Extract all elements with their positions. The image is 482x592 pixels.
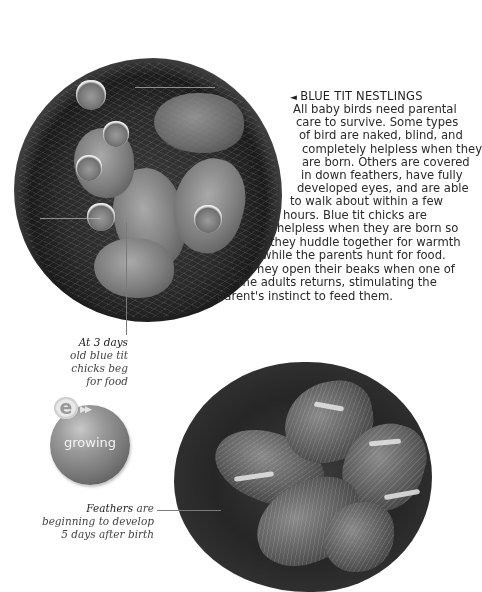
heading-text: BLUE TIT NESTLINGS [300, 89, 423, 103]
open-beak [103, 121, 129, 147]
chick-body [94, 238, 174, 298]
fast-forward-icon: ▶▶ [80, 404, 90, 414]
body-line: helpless when they are born so [277, 222, 458, 235]
body-line: to walk about within a few [290, 195, 443, 208]
caption-line: old blue tit [60, 349, 128, 362]
open-beak [87, 203, 115, 231]
caption-leader-line [157, 510, 221, 511]
body-line: the adults returns, stimulating the [238, 276, 437, 289]
caption-line: for food [60, 375, 128, 388]
caption-line: beginning to develop [40, 515, 154, 528]
caption-3-days: At 3 days old blue tit chicks beg for fo… [60, 336, 128, 388]
chick-body [154, 93, 244, 153]
open-beak [194, 205, 222, 233]
caption-lead: At 3 days [79, 336, 128, 348]
nest-photo-5-days [174, 362, 432, 592]
badge-label: growing [50, 435, 130, 450]
caption-lead: Feathers [86, 502, 133, 514]
caption-line: chicks beg [60, 362, 128, 375]
open-beak [76, 155, 102, 181]
e-link-logo-icon: e [54, 397, 78, 419]
body-line: of bird are naked, blind, and [299, 129, 463, 142]
leader-line [135, 87, 215, 88]
caption-5-days: Feathers are beginning to develop 5 days… [40, 502, 154, 541]
body-line: while the parents hunt for food. [262, 249, 446, 262]
caption-leader-line [126, 222, 127, 335]
section-heading: ◄BLUE TIT NESTLINGS [290, 89, 423, 103]
caption-lead-rest: are [133, 502, 154, 514]
leader-line [40, 218, 100, 219]
caption-line: 5 days after birth [40, 528, 154, 541]
open-beak [76, 80, 106, 110]
pointer-arrow-icon: ◄ [290, 92, 297, 102]
body-line: parent's instinct to feed them. [217, 290, 393, 303]
